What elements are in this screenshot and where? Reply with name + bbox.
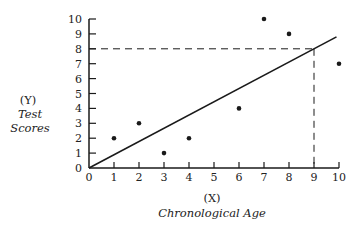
data-point <box>287 32 292 37</box>
y-tick-label: 0 <box>75 162 82 175</box>
x-tick-label: 8 <box>286 171 293 184</box>
x-tick-label: 2 <box>136 171 143 184</box>
data-point <box>187 136 192 141</box>
x-tick-label: 10 <box>332 171 346 184</box>
regression-line <box>89 37 337 168</box>
data-point <box>112 136 117 141</box>
x-axis-ticks: 012345678910 <box>86 162 347 184</box>
x-tick-label: 4 <box>186 171 193 184</box>
data-points <box>112 17 342 156</box>
x-tick-label: 3 <box>161 171 168 184</box>
x-tick-label: 9 <box>311 171 318 184</box>
y-tick-label: 2 <box>75 132 82 145</box>
y-tick-label: 9 <box>75 28 82 41</box>
y-tick-label: 1 <box>75 147 82 160</box>
y-tick-label: 10 <box>68 13 82 26</box>
y-tick-label: 4 <box>75 102 82 115</box>
data-point <box>262 17 267 22</box>
y-axis-title-line1: Test <box>18 107 42 121</box>
scatter-chart: 012345678910 012345678910 (Y) Test Score… <box>0 0 363 228</box>
x-tick-label: 7 <box>261 171 268 184</box>
data-point <box>137 121 142 126</box>
data-point <box>237 106 242 111</box>
y-tick-label: 6 <box>75 73 82 86</box>
y-axis-title-line2: Scores <box>10 121 50 135</box>
y-axis-ticks: 012345678910 <box>68 13 96 175</box>
x-tick-label: 6 <box>236 171 243 184</box>
x-axis-title: Chronological Age <box>158 206 266 220</box>
y-axis-title-prefix: (Y) <box>20 93 37 107</box>
data-point <box>337 61 342 66</box>
x-axis-title-prefix: (X) <box>203 191 220 205</box>
x-tick-label: 0 <box>86 171 93 184</box>
y-tick-label: 5 <box>75 88 82 101</box>
x-tick-label: 5 <box>211 171 218 184</box>
y-tick-label: 3 <box>75 117 82 130</box>
y-tick-label: 8 <box>75 43 82 56</box>
data-point <box>162 151 167 156</box>
x-tick-label: 1 <box>111 171 118 184</box>
y-tick-label: 7 <box>75 58 82 71</box>
